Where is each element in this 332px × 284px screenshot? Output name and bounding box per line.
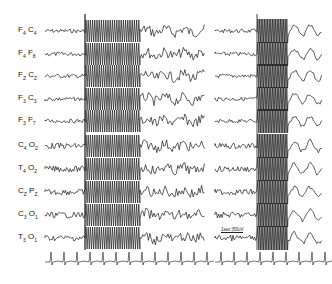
- channel-label: CZ PZ: [18, 187, 37, 198]
- channel-label: FZ CZ: [18, 71, 37, 82]
- eeg-trace: [215, 19, 322, 43]
- eeg-trace: [45, 158, 204, 180]
- channel-label: C3 O1: [18, 210, 38, 221]
- eeg-trace: [45, 204, 204, 226]
- channel-label: C4 O2: [18, 141, 38, 152]
- eeg-figure: F4 C4F4 F8FZ CZF3 C3F3 F7C4 O2T4 O2CZ PZ…: [0, 0, 332, 284]
- eeg-trace: [45, 20, 204, 42]
- eeg-trace: [215, 157, 322, 181]
- eeg-trace: [215, 203, 322, 227]
- eeg-trace: [215, 109, 322, 133]
- eeg-trace: [215, 87, 322, 111]
- eeg-trace: [215, 64, 322, 88]
- eeg-trace: [215, 42, 322, 66]
- channel-label: F3 F7: [18, 116, 36, 127]
- eeg-trace: [215, 180, 322, 204]
- eeg-trace: [215, 134, 322, 158]
- channel-label: F4 C4: [18, 26, 36, 37]
- eeg-trace: [45, 43, 204, 65]
- channel-label: F4 F8: [18, 49, 36, 60]
- eeg-trace: [45, 227, 204, 249]
- channel-label: T4 O2: [18, 164, 37, 175]
- eeg-trace: [45, 181, 204, 203]
- scale-bar: 1sec |50uV: [221, 227, 243, 233]
- eeg-trace: [45, 65, 204, 87]
- eeg-trace: [45, 135, 204, 157]
- eeg-trace: [45, 88, 204, 110]
- eeg-trace: [45, 252, 214, 265]
- eeg-traces: [0, 0, 332, 284]
- channel-label: F3 C3: [18, 94, 36, 105]
- channel-label: T3 O1: [18, 233, 37, 244]
- eeg-trace: [215, 252, 332, 265]
- eeg-trace: [45, 110, 204, 132]
